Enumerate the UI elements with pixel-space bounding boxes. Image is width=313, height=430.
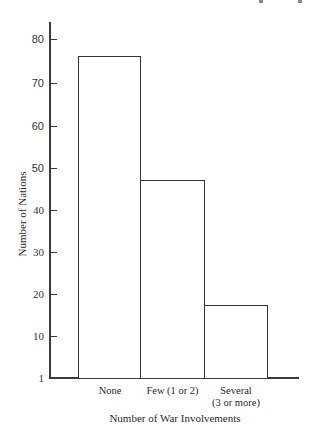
x-axis-title: Number of War Involvements (60, 412, 290, 424)
x-category-label-several: Several (204, 385, 268, 397)
x-category-label-few: Few (1 or 2) (140, 385, 205, 397)
y-axis-line (49, 22, 51, 379)
y-tick (50, 126, 57, 127)
y-tick (50, 83, 57, 84)
cropped-header-fragment (259, 0, 263, 3)
cropped-header-fragment (298, 0, 302, 3)
bar-none (78, 56, 141, 378)
y-tick (50, 39, 57, 40)
y-tick-label: 10 (18, 330, 44, 342)
y-axis-title: Number of Nations (16, 159, 28, 269)
y-tick (50, 294, 57, 295)
y-tick-label: 70 (18, 77, 44, 89)
y-tick-label: 1 (18, 372, 44, 384)
y-tick-label: 80 (18, 33, 44, 45)
bar-several (204, 305, 268, 378)
y-tick (50, 210, 57, 211)
y-tick (50, 168, 57, 169)
y-tick (50, 336, 57, 337)
x-category-label-several-sub: (3 or more) (204, 397, 268, 409)
y-tick (50, 252, 57, 253)
bar-few (140, 180, 205, 378)
y-tick-label: 20 (18, 288, 44, 300)
y-tick-label: 60 (18, 120, 44, 132)
x-category-label-none: None (80, 385, 140, 397)
